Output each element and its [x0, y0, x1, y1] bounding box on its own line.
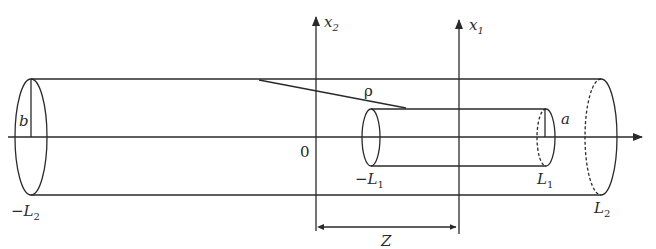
- rho-line: [259, 80, 406, 108]
- minus-L2-label: −L2: [11, 202, 40, 222]
- x1-axis-label: x1: [469, 16, 484, 36]
- minus-L1-label: −L1: [355, 170, 384, 190]
- L2-label: L2: [593, 199, 610, 219]
- x2-axis-label: x2: [324, 13, 339, 33]
- rho-label: ρ: [364, 82, 373, 100]
- L1-label: L1: [536, 170, 553, 190]
- inner-radius-label: a: [561, 110, 570, 128]
- z-dimension-left-arrow: [317, 224, 324, 230]
- outer-radius-label: b: [19, 112, 29, 130]
- coaxial-cylinders-diagram: x2 x1 0 ρ b a −L2 L2 −L1 L1 Z: [0, 0, 656, 249]
- origin-label: 0: [300, 143, 310, 161]
- z-label: Z: [380, 232, 392, 249]
